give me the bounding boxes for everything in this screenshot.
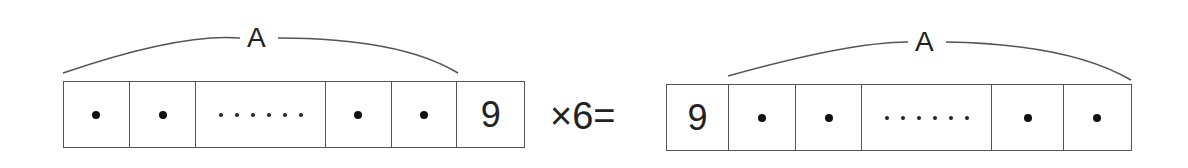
right-cell-6	[1064, 85, 1130, 150]
digit-dot	[354, 111, 362, 119]
left-brace-arc	[63, 37, 240, 73]
ellipsis-dots	[219, 113, 303, 117]
ellipsis-dots	[885, 116, 969, 120]
digit-dot	[92, 111, 100, 119]
right-cell-2	[729, 85, 796, 150]
left-last-digit: 9	[481, 97, 501, 133]
right-brace-label: A	[911, 28, 938, 56]
right-brace-arc	[728, 42, 908, 76]
digit-dot	[420, 111, 428, 119]
right-cell-5	[992, 85, 1064, 150]
right-cell-ellipsis	[862, 85, 992, 150]
digit-dot	[825, 114, 833, 122]
left-brace-arc-right	[278, 38, 458, 73]
right-brace-arc-right	[946, 42, 1131, 80]
right-cell-3	[796, 85, 862, 150]
left-cell-5	[392, 82, 458, 147]
right-first-digit: 9	[687, 100, 707, 136]
digit-dot	[1093, 114, 1101, 122]
left-number-strip: 9	[63, 81, 525, 148]
multiply-equals-operator: ×6=	[550, 97, 616, 135]
digit-dot	[159, 111, 167, 119]
left-cell-2	[130, 82, 197, 147]
left-cell-4	[326, 82, 392, 147]
right-number-strip: 9	[666, 84, 1132, 151]
right-cell-first: 9	[667, 85, 729, 150]
left-cell-last: 9	[457, 82, 524, 147]
digit-dot	[758, 114, 766, 122]
left-cell-ellipsis	[196, 82, 325, 147]
left-cell-1	[64, 82, 130, 147]
left-brace-label: A	[243, 24, 270, 52]
digit-dot	[1024, 114, 1032, 122]
